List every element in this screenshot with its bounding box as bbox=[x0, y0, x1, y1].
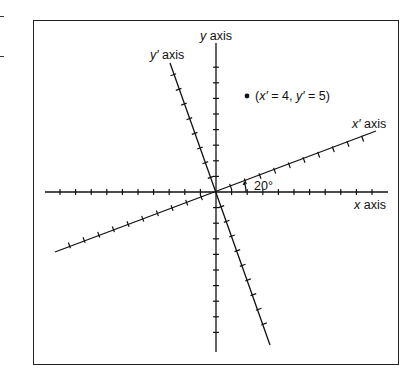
y-prime-axis-label: y′ axis bbox=[149, 48, 184, 62]
axes-diagram: y axis y′ axis (x′ = 4, y′ = 5) x′ axis … bbox=[0, 0, 417, 381]
point-marker bbox=[245, 94, 250, 99]
y-axis-label: y axis bbox=[199, 29, 232, 43]
angle-label: 20° bbox=[254, 179, 273, 193]
x-axis-label: x axis bbox=[353, 198, 386, 212]
point-label: (x′ = 4, y′ = 5) bbox=[255, 89, 330, 103]
y-prime-axis-line bbox=[170, 63, 270, 345]
x-prime-axis-label: x′ axis bbox=[351, 117, 386, 131]
